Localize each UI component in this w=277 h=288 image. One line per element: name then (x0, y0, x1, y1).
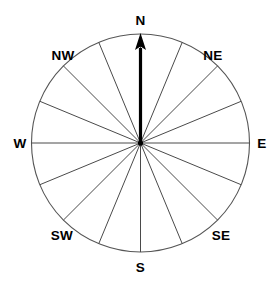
label-north: N (135, 13, 145, 28)
compass-rose-diagram: N NE E SE S SW W NW (0, 0, 277, 288)
label-northeast: NE (203, 48, 222, 63)
label-southwest: SW (51, 228, 73, 243)
label-east: E (257, 136, 266, 151)
label-west: W (13, 136, 26, 151)
label-south: S (136, 260, 145, 275)
label-northwest: NW (51, 48, 74, 63)
compass-rose-figure: N NE E SE S SW W NW (0, 0, 277, 288)
label-southeast: SE (212, 228, 231, 243)
compass-center-dot (138, 140, 143, 145)
